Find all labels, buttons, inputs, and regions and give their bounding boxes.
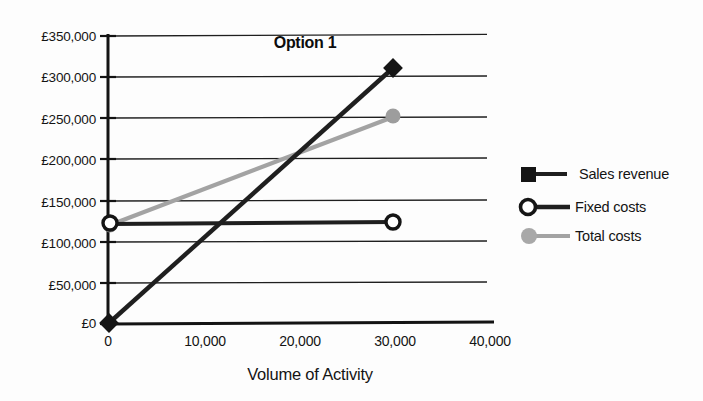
marker-fixed-costs-end bbox=[386, 215, 400, 229]
series-line-fixed-costs bbox=[110, 222, 393, 224]
chart-title: Option 1 bbox=[215, 34, 395, 52]
x-axis-title: Volume of Activity bbox=[130, 365, 490, 384]
legend-label-total-costs: Total costs bbox=[575, 228, 641, 244]
marker-fixed-costs-start bbox=[103, 216, 117, 230]
x-axis-line bbox=[108, 322, 494, 324]
series-line-sales-revenue bbox=[109, 68, 393, 323]
breakeven-chart: £350,000 £300,000 £250,000 £200,000 £150… bbox=[0, 0, 703, 401]
legend-label-sales-revenue: Sales revenue bbox=[579, 166, 669, 182]
legend-marker-fixed-costs bbox=[521, 200, 571, 215]
legend-label-fixed-costs: Fixed costs bbox=[575, 199, 646, 215]
series-line-total-costs bbox=[110, 117, 393, 225]
marker-total-costs-end bbox=[386, 109, 401, 124]
legend-marker-sales-revenue bbox=[521, 167, 567, 182]
gridlines bbox=[108, 34, 487, 283]
legend-marker-total-costs bbox=[521, 228, 570, 244]
